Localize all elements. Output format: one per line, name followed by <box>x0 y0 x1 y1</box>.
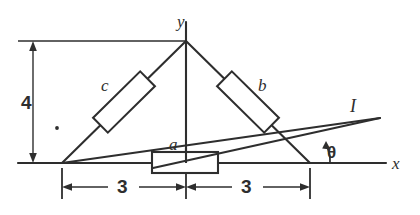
resistor-b <box>217 71 279 132</box>
current-label: I <box>350 96 356 117</box>
height-dimension-label: 4 <box>21 92 32 114</box>
dim-right-arrow-start <box>186 183 196 191</box>
resistor-c-label: c <box>101 76 109 96</box>
dot-marker <box>55 126 59 130</box>
y-axis-label: y <box>177 12 185 32</box>
theta-label: θ <box>327 143 336 163</box>
left-width-dimension-label: 3 <box>117 176 128 198</box>
resistor-a-label: a <box>169 135 178 155</box>
x-axis-label: x <box>392 154 400 174</box>
dim-height-arrow-up <box>29 41 37 51</box>
dim-height-arrow-down <box>29 153 37 163</box>
right-width-dimension-label: 3 <box>241 176 252 198</box>
diagram-canvas <box>0 0 420 215</box>
dim-left-arrow-start <box>62 183 72 191</box>
dim-left-arrow-end <box>176 183 186 191</box>
resistor-b-label: b <box>258 76 267 96</box>
dim-right-arrow-end <box>300 183 310 191</box>
